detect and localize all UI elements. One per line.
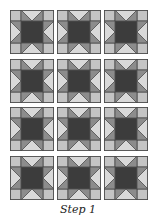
- step-caption: Step 1: [0, 203, 156, 217]
- sawtooth-star-block: [57, 10, 101, 54]
- sawtooth-star-block: [104, 107, 148, 151]
- sawtooth-star-block: [57, 107, 101, 151]
- sawtooth-star-block: [10, 59, 54, 103]
- sawtooth-star-block: [57, 156, 101, 200]
- sawtooth-star-block: [10, 156, 54, 200]
- sawtooth-star-block: [10, 10, 54, 54]
- quilt-block-grid: [0, 0, 156, 205]
- sawtooth-star-block: [104, 10, 148, 54]
- sawtooth-star-block: [57, 59, 101, 103]
- sawtooth-star-block: [10, 107, 54, 151]
- sawtooth-star-block: [104, 59, 148, 103]
- sawtooth-star-block: [104, 156, 148, 200]
